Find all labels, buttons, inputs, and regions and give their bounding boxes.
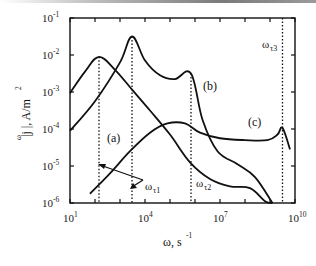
y-tick-label: 10-2 — [42, 47, 59, 61]
x-axis-title-sup: -1 — [186, 231, 192, 240]
omega-symbol: ω — [262, 38, 269, 50]
tau1-subscript: τ1 — [153, 186, 160, 195]
x-tick-label: 107 — [213, 210, 228, 224]
y-axis-title-sup: 2 — [14, 86, 23, 90]
omega-symbol: ω — [196, 177, 203, 189]
tau3-subscript: τ3 — [270, 44, 277, 53]
series-label-a: (a) — [107, 131, 120, 145]
omega-tau3-label: ω τ3 — [262, 38, 277, 53]
chart: 101104107101010-110-210-310-410-510-6 (a… — [0, 0, 316, 266]
x-tick-label: 101 — [63, 210, 78, 224]
y-tick-label: 10-3 — [42, 84, 59, 98]
y-tick-label: 10-1 — [42, 10, 59, 24]
curve-b — [70, 36, 273, 203]
x-axis-title-text: ω, s — [163, 235, 182, 249]
y-axis-title: |j |, A/m ω 2 — [14, 86, 33, 140]
y-axis-title-omega: ω — [14, 135, 23, 140]
y-tick-label: 10-4 — [42, 121, 59, 135]
omega-tau1-label: ω τ1 — [145, 180, 160, 195]
y-tick-label: 10-5 — [42, 158, 59, 172]
omega-symbol: ω — [145, 180, 152, 192]
series-label-c: (c) — [248, 115, 261, 129]
x-axis-title: ω, s -1 — [163, 231, 192, 249]
y-axis-title-text: |j |, A/m — [19, 98, 33, 136]
tau2-subscript: τ2 — [204, 183, 211, 192]
y-tick-label: 10-6 — [42, 195, 59, 209]
arrow-icon-tau1 — [98, 164, 143, 189]
series-label-b: (b) — [203, 79, 217, 93]
x-tick-label: 1010 — [288, 210, 307, 224]
x-tick-label: 104 — [138, 210, 153, 224]
